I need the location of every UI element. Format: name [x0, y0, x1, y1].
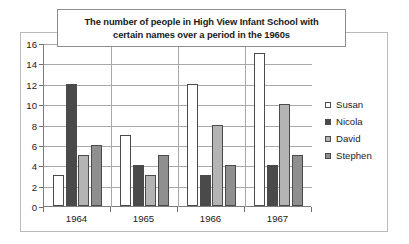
bar — [53, 175, 64, 206]
chart-legend: SusanNicolaDavidStephen — [325, 96, 372, 164]
bar — [78, 155, 89, 206]
bar — [91, 145, 102, 206]
legend-label: Susan — [336, 99, 363, 110]
x-axis-label-1965: 1965 — [114, 213, 174, 224]
y-axis-label: 6 — [3, 140, 37, 151]
bar — [200, 175, 211, 206]
bar — [225, 165, 236, 206]
y-axis-tick — [39, 85, 43, 86]
x-axis-tick — [177, 207, 178, 212]
y-axis-label: 8 — [3, 120, 37, 131]
y-axis-label: 2 — [3, 181, 37, 192]
group-separator — [178, 44, 179, 207]
chart-title-line-2: certain names over a period in the 1960s — [113, 29, 290, 40]
group-separator — [111, 44, 112, 207]
legend-label: David — [336, 133, 361, 144]
y-axis-tick — [39, 64, 43, 65]
y-axis-tick — [39, 105, 43, 106]
bar — [133, 165, 144, 206]
bar-chart: The number of people in High View Infant… — [0, 0, 409, 244]
y-axis-label: 14 — [3, 59, 37, 70]
bar — [267, 165, 278, 206]
y-axis-tick — [39, 187, 43, 188]
legend-item-nicola: Nicola — [325, 113, 372, 130]
bar — [158, 155, 169, 206]
y-axis-tick — [39, 126, 43, 127]
y-axis-label: 10 — [3, 100, 37, 111]
bar — [212, 125, 223, 207]
chart-title-line-1: The number of people in High View Infant… — [84, 16, 318, 27]
plot-area — [43, 44, 311, 207]
y-axis-tick — [39, 44, 43, 45]
x-axis-tick — [311, 207, 312, 212]
y-axis-label: 16 — [3, 39, 37, 50]
x-axis-tick — [244, 207, 245, 212]
x-axis-label-1966: 1966 — [181, 213, 241, 224]
y-axis-label: 4 — [3, 161, 37, 172]
group-separator — [245, 44, 246, 207]
legend-swatch-icon — [325, 136, 331, 142]
legend-swatch-icon — [325, 153, 331, 159]
y-axis-label: 12 — [3, 79, 37, 90]
legend-label: Stephen — [336, 150, 372, 161]
legend-label: Nicola — [336, 116, 363, 127]
y-axis-tick — [39, 146, 43, 147]
bar — [254, 53, 265, 206]
y-axis-label: 0 — [3, 202, 37, 213]
chart-title: The number of people in High View Infant… — [57, 9, 346, 47]
legend-item-susan: Susan — [325, 96, 372, 113]
chart-title-text: The number of people in High View Infant… — [79, 15, 323, 41]
legend-swatch-icon — [325, 119, 331, 125]
y-axis-labels: 0246810121416 — [0, 0, 37, 244]
x-axis-tick-origin — [43, 207, 44, 212]
legend-item-david: David — [325, 130, 372, 147]
bar — [292, 155, 303, 206]
x-axis-tick — [110, 207, 111, 212]
bar — [66, 84, 77, 206]
y-axis-tick — [39, 166, 43, 167]
bar — [145, 175, 156, 206]
legend-swatch-icon — [325, 102, 331, 108]
legend-item-stephen: Stephen — [325, 147, 372, 164]
bar — [279, 104, 290, 206]
x-axis-label-1964: 1964 — [47, 213, 107, 224]
x-axis-label-1967: 1967 — [248, 213, 308, 224]
bar — [120, 135, 131, 206]
bar — [187, 84, 198, 206]
